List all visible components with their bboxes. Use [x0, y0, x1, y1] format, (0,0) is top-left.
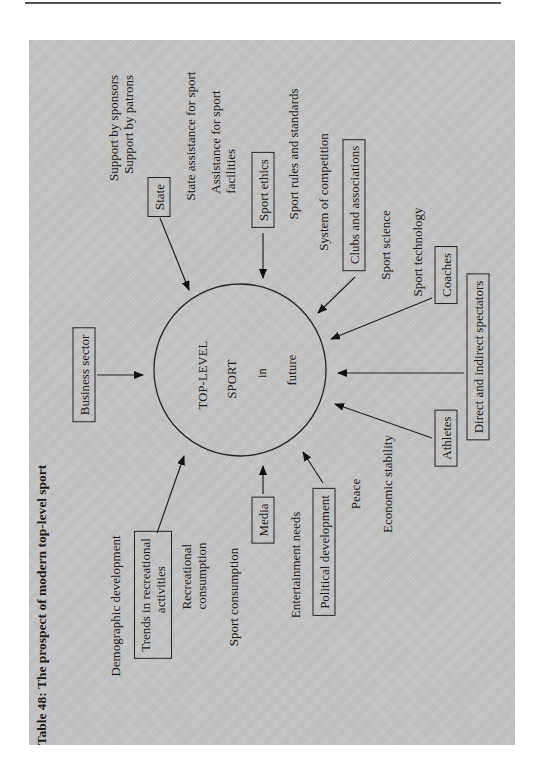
label-peace: Peace [348, 479, 363, 509]
arrow-political [303, 452, 323, 483]
box-athletes: Athletes [435, 409, 458, 466]
box-coaches: Coaches [435, 246, 458, 304]
box-clubs-associations: Clubs and associations [343, 139, 366, 271]
label-sport-rules: Sport rules and standards [286, 88, 301, 219]
label-support-patrons: Support by patrons [121, 75, 136, 174]
arrow-clubs [318, 277, 355, 313]
arrow-coaches [331, 298, 432, 339]
arrow-trends [157, 456, 184, 533]
arrow-athletes [335, 404, 432, 438]
label-assistance-facilities: Assistance for sport facilities [208, 90, 238, 193]
label-assistance-line-1: Assistance for sport [208, 90, 223, 193]
box-business-sector: Business sector [73, 328, 96, 423]
center-circle [154, 284, 326, 456]
center-text-line-1: TOP-LEVEL [196, 341, 211, 410]
box-spectators: Direct and indirect spectators [467, 274, 490, 441]
label-recreational-consumption: Recreational consumption [179, 542, 209, 609]
center-text-line-4: future [285, 354, 300, 385]
label-system-competition: System of competition [316, 133, 331, 251]
label-support-sponsors: Support by sponsors [106, 75, 121, 181]
label-assistance-line-2: facilities [223, 149, 238, 194]
figure-caption: Table 48: The prospect of modern top-lev… [34, 465, 49, 746]
arrow-state [160, 218, 189, 290]
label-recreational-line-1: Recreational [179, 544, 194, 610]
box-sport-ethics: Sport ethics [252, 152, 275, 228]
label-demographic-development: Demographic development [108, 535, 123, 676]
label-support: Support by sponsors Support by patrons [106, 75, 136, 181]
box-political-development: Political development [313, 488, 336, 616]
center-text-line-2: SPORT [225, 359, 240, 398]
box-trends-recreational: Trends in recreational activities [134, 531, 172, 659]
label-entertainment-needs: Entertainment needs [288, 512, 303, 619]
center-text-line-3: in [255, 368, 270, 378]
trends-line-1: Trends in recreational [138, 538, 153, 652]
label-sport-technology: Sport technology [410, 207, 425, 296]
trends-line-2: activities [153, 538, 168, 613]
label-sport-consumption: Sport consumption [226, 548, 241, 647]
label-recreational-line-2: consumption [194, 542, 209, 609]
label-sport-science: Sport science [378, 210, 393, 280]
box-state: State [148, 177, 171, 217]
box-media: Media [252, 496, 275, 543]
label-state-assistance: State assistance for sport [183, 72, 198, 201]
label-economic-stability: Economic stability [380, 435, 395, 533]
